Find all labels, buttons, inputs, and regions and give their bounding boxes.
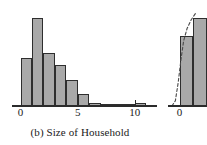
histogram-bar — [43, 53, 54, 106]
x-tick-label: 0 — [11, 106, 31, 119]
histogram-bars — [16, 18, 152, 106]
right-histogram-panel: 0 — [163, 0, 207, 130]
main-plot-area — [16, 18, 152, 106]
figure-caption: (b) Size of Household — [0, 126, 160, 138]
main-histogram-panel: 0510 — [0, 0, 160, 130]
histogram-bar — [55, 65, 66, 106]
x-tick-label: 5 — [68, 106, 88, 119]
right-x-tick-label: 0 — [170, 106, 190, 119]
histogram-bar — [32, 18, 43, 106]
histogram-bar — [21, 58, 32, 106]
histogram-bar — [66, 80, 77, 106]
x-tick-label: 10 — [125, 106, 145, 119]
figure-container: 0510 0 (b) Size of Household — [0, 0, 207, 145]
overlay-density-curve — [163, 18, 207, 106]
right-plot-area — [163, 18, 207, 106]
